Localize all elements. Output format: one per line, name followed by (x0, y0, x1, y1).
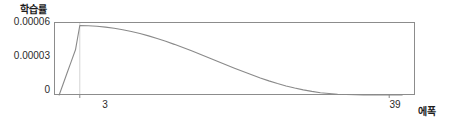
y-axis-tick-label-0: 0 (0, 85, 50, 95)
y-axis-tick-label-0.00006: 0.00006 (0, 17, 50, 27)
x-axis-title: 에폭 (418, 103, 436, 118)
x-axis-tick-label-3: 3 (94, 100, 116, 110)
y-axis-tick-label-0.00003: 0.00003 (0, 51, 50, 61)
learning-rate-schedule-chart: 학습률 0.00006 0.00003 0 3 39 에폭 (0, 0, 449, 125)
y-axis-title: 학습률 (20, 1, 47, 16)
plot-area (54, 22, 415, 95)
x-axis-tick-label-39: 39 (384, 100, 406, 110)
